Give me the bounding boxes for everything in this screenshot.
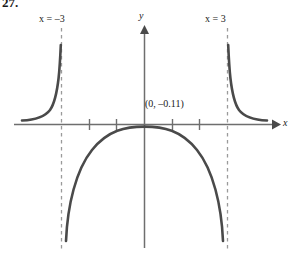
x-axis-arrow-icon: [272, 120, 281, 130]
curve-right-branch: [228, 45, 267, 121]
asymptote-label-right: x = 3: [205, 13, 226, 24]
graph-plot: [0, 0, 296, 266]
y-axis-arrow-icon: [140, 25, 149, 34]
y-axis-label: y: [139, 10, 143, 21]
x-axis-label: x: [283, 117, 287, 128]
figure-container: 27. y x x = –3 x = 3 (0, –0.11): [0, 0, 296, 266]
point-annotation-label: (0, –0.11): [145, 98, 184, 109]
curve-left-branch: [22, 45, 61, 121]
asymptote-label-left: x = –3: [39, 13, 65, 24]
